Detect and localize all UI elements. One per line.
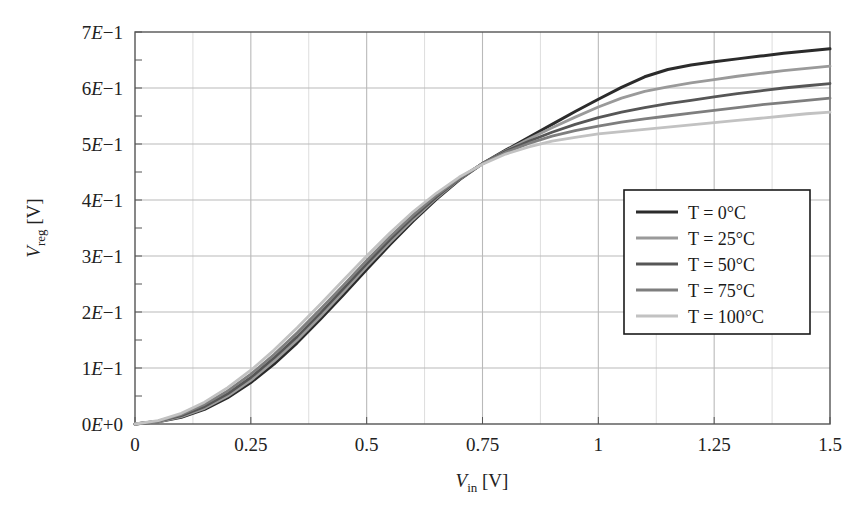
legend-label-4: T = 100°C (688, 307, 764, 327)
y-tick-label: 3E−1 (82, 246, 123, 267)
y-tick-label: 7E−1 (82, 22, 123, 43)
y-tick-label: 2E−1 (82, 302, 123, 323)
y-tick-label: 5E−1 (82, 134, 123, 155)
y-tick-label: 6E−1 (82, 78, 123, 99)
y-tick-label: 0E+0 (82, 414, 123, 435)
x-tick-label: 1 (594, 434, 604, 455)
legend-label-0: T = 0°C (688, 203, 746, 223)
x-axis-title-subscript: in (467, 480, 478, 495)
y-tick-label: 4E−1 (82, 190, 123, 211)
y-axis-title-subscript: reg (33, 229, 48, 246)
x-tick-label: 0.5 (355, 434, 379, 455)
legend-label-1: T = 25°C (688, 229, 755, 249)
x-tick-label: 1.25 (698, 434, 731, 455)
x-tick-label: 0.75 (466, 434, 499, 455)
chart-container: 00.250.50.7511.251.5 0E+01E−12E−13E−14E−… (0, 0, 854, 520)
x-axis-title-unit: [V] (477, 470, 508, 491)
legend-label-3: T = 75°C (688, 281, 755, 301)
x-tick-label: 0.25 (234, 434, 267, 455)
x-tick-label: 0 (130, 434, 140, 455)
line-chart: 00.250.50.7511.251.5 0E+01E−12E−13E−14E−… (0, 0, 854, 520)
y-axis-title-unit: [V] (23, 198, 44, 229)
y-tick-label: 1E−1 (82, 358, 123, 379)
legend-label-2: T = 50°C (688, 255, 755, 275)
x-tick-label: 1.5 (818, 434, 842, 455)
chart-legend[interactable]: T = 0°CT = 25°CT = 50°CT = 75°CT = 100°C (624, 190, 810, 334)
